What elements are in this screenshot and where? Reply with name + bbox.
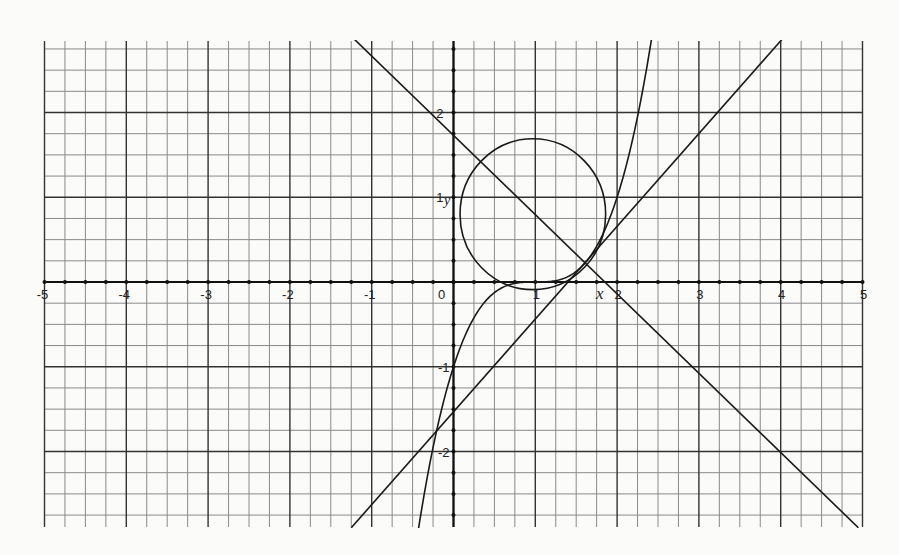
x-tick-mark bbox=[104, 280, 108, 284]
x-tick-mark bbox=[349, 280, 353, 284]
x-tick-mark bbox=[820, 280, 824, 284]
x-tick-mark bbox=[206, 280, 210, 284]
y-tick-label: 2 bbox=[436, 106, 443, 121]
x-tick-mark bbox=[43, 280, 47, 284]
y-axis-variable-label: y bbox=[442, 193, 451, 208]
x-tick-mark bbox=[717, 280, 721, 284]
x-tick-label: 1 bbox=[533, 287, 540, 302]
y-tick-mark bbox=[452, 386, 456, 390]
y-tick-mark bbox=[452, 89, 456, 93]
y-tick-mark bbox=[452, 153, 456, 157]
x-tick-label: 5 bbox=[860, 287, 867, 302]
x-tick-label: 4 bbox=[778, 287, 785, 302]
x-tick-mark bbox=[288, 280, 292, 284]
y-tick-mark bbox=[452, 280, 456, 284]
x-tick-label: -3 bbox=[200, 287, 212, 302]
x-axis-variable-label: x bbox=[595, 284, 604, 303]
x-tick-label: 0 bbox=[438, 287, 445, 302]
x-tick-mark bbox=[124, 280, 128, 284]
x-tick-mark bbox=[492, 280, 496, 284]
x-tick-mark bbox=[758, 280, 762, 284]
x-tick-label: 3 bbox=[696, 287, 703, 302]
x-tick-mark bbox=[308, 280, 312, 284]
x-tick-mark bbox=[676, 280, 680, 284]
y-tick-mark bbox=[452, 238, 456, 242]
x-tick-mark bbox=[615, 280, 619, 284]
y-tick-mark bbox=[452, 450, 456, 454]
y-tick-mark bbox=[452, 111, 456, 115]
y-tick-mark bbox=[452, 47, 456, 51]
x-tick-label: 2 bbox=[614, 287, 621, 302]
y-tick-mark bbox=[452, 174, 456, 178]
y-tick-label: -2 bbox=[438, 445, 450, 460]
x-tick-label: -1 bbox=[364, 287, 376, 302]
y-tick-mark bbox=[452, 471, 456, 475]
x-tick-mark bbox=[636, 280, 640, 284]
x-tick-label: -5 bbox=[37, 287, 49, 302]
x-tick-mark bbox=[697, 280, 701, 284]
x-tick-mark bbox=[186, 280, 190, 284]
x-tick-mark bbox=[329, 280, 333, 284]
x-tick-mark bbox=[779, 280, 783, 284]
x-tick-mark bbox=[165, 280, 169, 284]
y-tick-mark bbox=[452, 428, 456, 432]
y-tick-mark bbox=[452, 492, 456, 496]
x-tick-label: -4 bbox=[119, 287, 131, 302]
x-tick-mark bbox=[431, 280, 435, 284]
x-tick-mark bbox=[63, 280, 67, 284]
circle-series bbox=[460, 139, 606, 290]
y-tick-mark bbox=[452, 513, 456, 517]
y-tick-mark bbox=[452, 259, 456, 263]
x-tick-mark bbox=[861, 280, 865, 284]
y-tick-mark bbox=[452, 195, 456, 199]
x-tick-mark bbox=[799, 280, 803, 284]
x-tick-mark bbox=[574, 280, 578, 284]
x-tick-mark bbox=[840, 280, 844, 284]
x-tick-mark bbox=[83, 280, 87, 284]
x-tick-mark bbox=[472, 280, 476, 284]
x-tick-mark bbox=[411, 280, 415, 284]
x-tick-mark bbox=[738, 280, 742, 284]
y-tick-mark bbox=[452, 216, 456, 220]
y-tick-mark bbox=[452, 344, 456, 348]
x-tick-mark bbox=[267, 280, 271, 284]
x-tick-mark bbox=[390, 280, 394, 284]
y-tick-mark bbox=[452, 322, 456, 326]
x-tick-mark bbox=[370, 280, 374, 284]
x-tick-mark bbox=[227, 280, 231, 284]
y-tick-label: 1 bbox=[436, 190, 443, 205]
y-tick-mark bbox=[452, 68, 456, 72]
x-tick-mark bbox=[145, 280, 149, 284]
graph-paper-plot: -5-4-3-2-101234521-1-2 x y bbox=[0, 0, 899, 555]
x-tick-mark bbox=[247, 280, 251, 284]
y-tick-mark bbox=[452, 301, 456, 305]
x-tick-label: -2 bbox=[282, 287, 294, 302]
x-tick-mark bbox=[656, 280, 660, 284]
y-tick-label: -1 bbox=[438, 360, 450, 375]
